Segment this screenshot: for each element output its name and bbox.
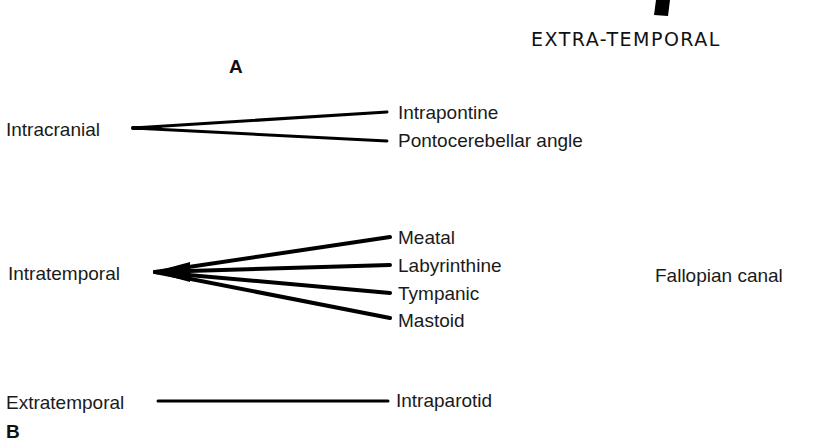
branch-label-labyrinthine: Labyrinthine [398,255,502,277]
branch-label-intrapontine: Intrapontine [398,102,498,124]
branch-label-tympanic: Tympanic [398,283,479,305]
source-label-extratemporal: Extratemporal [6,392,124,414]
panel-letter-b: B [6,421,20,443]
branch-label-meatal: Meatal [398,227,455,249]
marker-bar-shape [654,0,670,16]
branch-label-mastoid: Mastoid [398,310,465,332]
extra-temporal-heading: EXTRA-TEMPORAL [531,28,721,50]
source-label-intratemporal: Intratemporal [8,263,120,285]
intratemporal-connectors [153,237,390,318]
branch-label-intraparotid: Intraparotid [396,390,492,412]
intracranial-connectors [133,112,387,141]
branch-label-pontocerebellar-angle: Pontocerebellar angle [398,130,583,152]
connector-lines [0,0,817,445]
panel-letter-a: A [229,56,243,78]
source-label-intracranial: Intracranial [6,119,100,141]
side-label-fallopian-canal: Fallopian canal [655,265,783,287]
